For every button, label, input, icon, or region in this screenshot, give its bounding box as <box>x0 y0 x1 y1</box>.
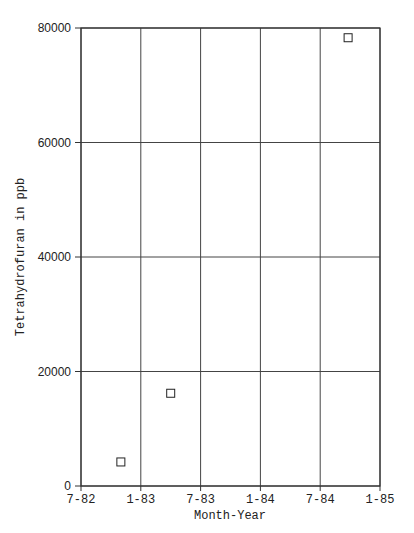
x-tick-label: 1-85 <box>366 493 395 507</box>
x-tick-label: 7-84 <box>306 493 335 507</box>
x-tick-label: 7-82 <box>67 493 96 507</box>
x-tick-label: 1-83 <box>126 493 155 507</box>
square-marker-icon <box>167 389 175 397</box>
square-marker-icon <box>344 34 352 42</box>
grid-lines <box>81 28 380 486</box>
x-tick-label: 1-84 <box>246 493 275 507</box>
y-tick-label: 20000 <box>38 365 72 379</box>
data-points <box>117 34 352 466</box>
square-marker-icon <box>117 458 125 466</box>
x-axis-label: Month-Year <box>194 509 266 523</box>
y-axis-label: Tetrahydrofuran in ppb <box>14 178 28 336</box>
y-tick-label: 40000 <box>38 250 72 264</box>
y-tick-label: 0 <box>64 479 71 493</box>
y-tick-label: 60000 <box>38 136 72 150</box>
scatter-chart: 020000400006000080000 7-821-837-831-847-… <box>0 0 414 533</box>
x-axis-ticks: 7-821-837-831-847-841-85 <box>67 486 395 507</box>
y-tick-label: 80000 <box>38 21 72 35</box>
y-axis-ticks: 020000400006000080000 <box>38 21 81 493</box>
x-tick-label: 7-83 <box>186 493 215 507</box>
